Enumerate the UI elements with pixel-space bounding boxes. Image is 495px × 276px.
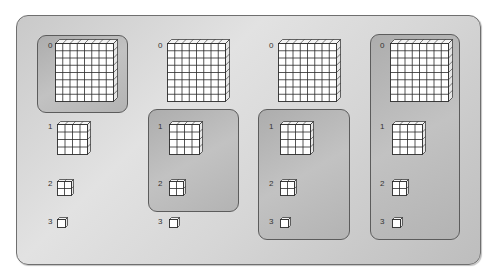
level-label-col-3-1: 1 (269, 123, 273, 131)
grid-cube-col-2-level-0 (167, 39, 230, 102)
grid-cube-col-1-level-3 (57, 217, 68, 228)
grid-cube-col-2-level-2 (169, 179, 186, 196)
level-label-col-1-1: 1 (48, 123, 52, 131)
level-label-col-4-0: 0 (380, 42, 384, 50)
grid-cube-col-3-level-3 (280, 217, 291, 228)
grid-cube-col-4-level-0 (390, 39, 453, 102)
level-label-col-3-3: 3 (269, 218, 273, 226)
grid-cube-col-3-level-0 (278, 39, 341, 102)
grid-cube-col-1-level-1 (57, 121, 91, 155)
grid-cube-col-4-level-1 (392, 121, 426, 155)
level-label-col-1-0: 0 (48, 42, 52, 50)
level-label-col-2-2: 2 (158, 180, 162, 188)
level-label-col-4-1: 1 (380, 123, 384, 131)
grid-cube-col-1-level-0 (55, 39, 118, 102)
level-label-col-4-3: 3 (380, 218, 384, 226)
grid-cube-col-2-level-3 (169, 217, 180, 228)
grid-cube-col-2-level-1 (169, 121, 203, 155)
grid-cube-col-4-level-2 (392, 179, 409, 196)
level-label-col-2-1: 1 (158, 123, 162, 131)
level-label-col-3-2: 2 (269, 180, 273, 188)
level-label-col-1-3: 3 (48, 218, 52, 226)
level-label-col-4-2: 2 (380, 180, 384, 188)
grid-cube-col-3-level-1 (280, 121, 314, 155)
level-label-col-1-2: 2 (48, 180, 52, 188)
grid-cube-col-4-level-3 (392, 217, 403, 228)
level-label-col-3-0: 0 (269, 42, 273, 50)
grid-cube-col-3-level-2 (280, 179, 297, 196)
grid-cube-col-1-level-2 (57, 179, 74, 196)
level-label-col-2-0: 0 (158, 42, 162, 50)
level-label-col-2-3: 3 (158, 218, 162, 226)
